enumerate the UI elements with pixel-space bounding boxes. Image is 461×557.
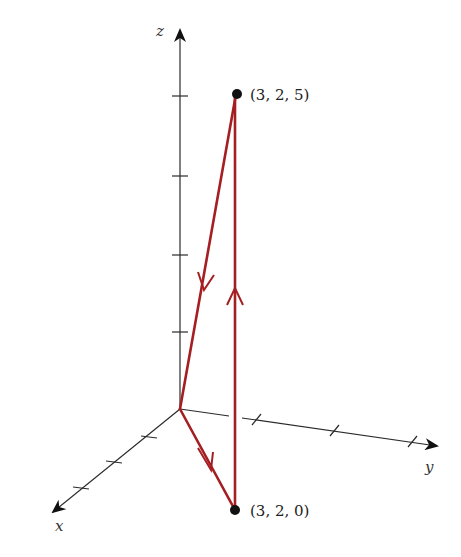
x-axis-ticks (73, 436, 157, 489)
y-axis-label: y (424, 458, 434, 476)
segment-origin-to-bottom (180, 409, 235, 510)
z-axis-label: z (155, 22, 164, 40)
x-axis-label: x (55, 517, 64, 535)
x-axis (53, 409, 180, 512)
arrow-diagonal-icon (198, 448, 213, 470)
3d-diagram: z y x (3, 2, 5) (3, 2, 0) (0, 0, 461, 557)
segment-top-to-origin (180, 94, 236, 409)
point-bottom-label: (3, 2, 0) (250, 502, 309, 520)
point-bottom (230, 505, 240, 515)
y-axis-ticks (252, 414, 417, 447)
y-axis (180, 409, 437, 446)
point-top (232, 89, 242, 99)
point-top-label: (3, 2, 5) (250, 86, 309, 104)
